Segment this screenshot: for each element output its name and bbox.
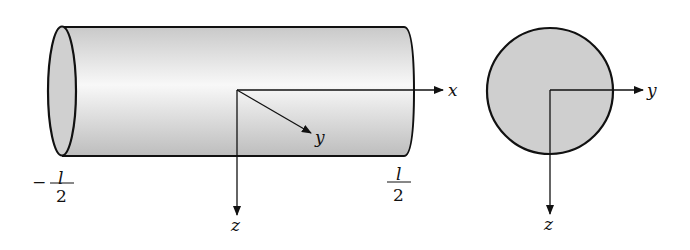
cylinder xyxy=(48,27,414,157)
cross-section: y z xyxy=(487,28,657,234)
x-axis-label: x xyxy=(448,80,458,100)
beam-diagram: x y z − l 2 l 2 y z xyxy=(0,0,690,250)
numerator: l xyxy=(58,168,63,188)
section-z-axis-label: z xyxy=(543,214,554,234)
minus-sign: − xyxy=(32,172,46,192)
left-end-label: − l 2 xyxy=(32,168,74,206)
z-axis-label: z xyxy=(230,215,241,235)
section-y-axis-label: y xyxy=(646,80,657,100)
denominator: 2 xyxy=(56,186,67,206)
denominator: 2 xyxy=(393,185,404,205)
y-axis-label: y xyxy=(314,127,325,147)
numerator: l xyxy=(396,164,401,184)
cylinder-left-end xyxy=(48,27,76,156)
right-end-label: l 2 xyxy=(387,164,411,205)
